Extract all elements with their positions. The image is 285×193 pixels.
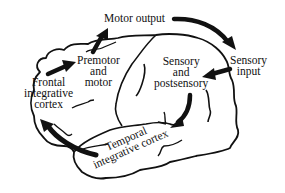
arrow-head-temporal-icon [170, 116, 184, 128]
arrow-sensory-to-temporal [178, 95, 190, 122]
label-sensory-input: Sensory input [230, 55, 267, 77]
label-motor-output: Motor output [104, 13, 165, 24]
brain-flow-diagram: Motor output Premotor and motor Frontal … [0, 0, 285, 193]
central-sulcus [115, 35, 156, 126]
sulcus-frontal [72, 100, 94, 108]
sulcus-occipital [206, 90, 211, 122]
label-frontal-integrative-cortex: Frontal integrative cortex [24, 77, 73, 110]
arrow-frontal-to-premotor [48, 66, 66, 74]
label-premotor-and-motor: Premotor and motor [77, 55, 120, 88]
arrow-head-premotor-icon [62, 60, 76, 72]
sulcus-parietal [136, 64, 145, 96]
label-sensory-and-postsensory: Sensory and postsensory [154, 56, 208, 89]
